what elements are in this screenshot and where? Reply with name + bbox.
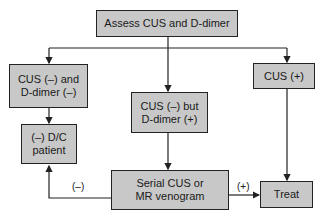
discharge-line2: patient	[32, 144, 65, 157]
positive-edge-label: (+)	[237, 181, 250, 192]
ddimer-positive-line2: D-dimer (+)	[142, 113, 198, 126]
discharge-node: (–) D/C patient	[21, 124, 77, 164]
both-negative-node: CUS (–) and D-dimer (–)	[9, 64, 88, 108]
negative-edge-label: (–)	[72, 181, 84, 192]
ddimer-positive-node: CUS (–) but D-dimer (+)	[131, 92, 208, 133]
both-negative-line2: D-dimer (–)	[21, 86, 77, 99]
assess-node-text: Assess CUS and D-dimer	[104, 17, 229, 30]
ddimer-positive-line1: CUS (–) but	[140, 100, 198, 113]
serial-line1: Serial CUS or	[136, 177, 203, 190]
both-negative-line1: CUS (–) and	[18, 73, 79, 86]
serial-line2: MR venogram	[135, 190, 204, 203]
cus-positive-text: CUS (+)	[264, 70, 304, 83]
treat-text: Treat	[274, 188, 299, 201]
treat-node: Treat	[260, 181, 313, 208]
assess-node: Assess CUS and D-dimer	[96, 10, 238, 37]
discharge-line1: (–) D/C	[31, 131, 66, 144]
cus-positive-node: CUS (+)	[253, 63, 315, 89]
serial-node: Serial CUS or MR venogram	[111, 170, 229, 210]
